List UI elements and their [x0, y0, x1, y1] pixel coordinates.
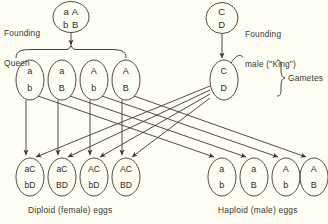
king-allele-top: C: [206, 6, 238, 17]
female-gamete-4: A B: [112, 66, 140, 96]
haploid-egg-2: a B: [240, 164, 268, 192]
haploid-egg-2-allele-top: a: [240, 164, 268, 174]
female-gamete-4-allele-bottom: B: [112, 83, 140, 93]
female-gamete-4-allele-top: A: [112, 66, 140, 76]
female-gamete-2-allele-top: a: [48, 66, 76, 76]
male-gamete-allele-top: C: [210, 66, 238, 76]
diploid-egg-1-allele-top: aC: [16, 164, 44, 174]
haploid-egg-1-allele-bottom: b: [208, 180, 236, 190]
female-gamete-3-allele-bottom: b: [80, 83, 108, 93]
female-gamete-2: a B: [48, 66, 76, 96]
haploid-egg-3: A b: [272, 164, 300, 192]
diploid-egg-4-allele-top: AC: [112, 164, 140, 174]
diploid-egg-4: AC BD: [112, 164, 140, 192]
female-gamete-3-allele-top: A: [80, 66, 108, 76]
diploid-egg-4-allele-bottom: BD: [112, 180, 140, 190]
haploid-egg-3-allele-top: A: [272, 164, 300, 174]
female-gamete-2-allele-bottom: B: [48, 83, 76, 93]
queen-genotype: a A b B: [53, 3, 89, 31]
diploid-egg-3-allele-bottom: bD: [80, 180, 108, 190]
haploid-egg-3-allele-bottom: b: [272, 180, 300, 190]
haploid-egg-4-allele-top: A: [300, 164, 328, 174]
diploid-egg-2-allele-bottom: BD: [48, 180, 76, 190]
diploid-egg-2: aC BD: [48, 164, 76, 192]
queen-allele-bottom: b B: [53, 19, 89, 30]
male-gamete: C D: [210, 66, 238, 96]
male-gamete-allele-bottom: D: [210, 83, 238, 93]
king-genotype: C D: [206, 4, 238, 32]
haploid-egg-1: a b: [208, 164, 236, 192]
diploid-egg-3-allele-top: AC: [80, 164, 108, 174]
king-allele-bottom: D: [206, 19, 238, 30]
female-gamete-1: a b: [16, 66, 44, 96]
haploid-egg-4-allele-bottom: B: [300, 180, 328, 190]
link-malegamete-diploid4: [132, 98, 210, 157]
founding-male-label-line2: male ("King"): [245, 59, 296, 69]
founding-queen-label-line1: Founding: [4, 28, 40, 38]
female-gamete-1-allele-bottom: b: [16, 83, 44, 93]
haploid-egg-1-allele-top: a: [208, 164, 236, 174]
founding-male-label-line1: Founding: [245, 29, 296, 39]
female-gamete-1-allele-top: a: [16, 66, 44, 76]
diploid-egg-1: aC bD: [16, 164, 44, 192]
diploid-egg-1-allele-bottom: bD: [16, 180, 44, 190]
genetics-inheritance-diagram: Founding Queen Founding male ("King") Ga…: [0, 0, 328, 224]
gametes-label: Gametes: [288, 73, 323, 83]
queen-allele-top: a A: [53, 6, 89, 17]
female-gamete-3: A b: [80, 66, 108, 96]
diploid-egg-3: AC bD: [80, 164, 108, 192]
male-gamete-hook: [231, 55, 243, 63]
diploid-egg-2-allele-top: aC: [48, 164, 76, 174]
haploid-egg-2-allele-bottom: B: [240, 180, 268, 190]
haploid-egg-4: A B: [300, 164, 328, 192]
